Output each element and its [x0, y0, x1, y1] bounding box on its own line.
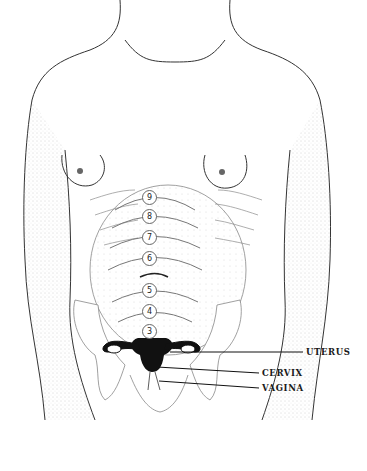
torso-drawing — [0, 0, 367, 471]
left-nipple — [77, 168, 83, 174]
fundal-marker-5: 5 — [142, 283, 157, 298]
cervix-label: CERVIX — [262, 368, 303, 378]
fundal-marker-9: 9 — [142, 190, 157, 205]
fundal-marker-3: 3 — [142, 324, 157, 339]
fundal-marker-8: 8 — [142, 209, 157, 224]
right-nipple — [219, 169, 225, 175]
anatomy-illustration: 9 8 7 6 5 4 3 UTERUS CERVIX VAGINA — [0, 0, 367, 471]
fundal-marker-6: 6 — [142, 251, 157, 266]
fundal-marker-7: 7 — [142, 230, 157, 245]
fundal-marker-4: 4 — [142, 304, 157, 319]
vagina-label: VAGINA — [262, 383, 304, 393]
uterus-label: UTERUS — [306, 347, 350, 357]
